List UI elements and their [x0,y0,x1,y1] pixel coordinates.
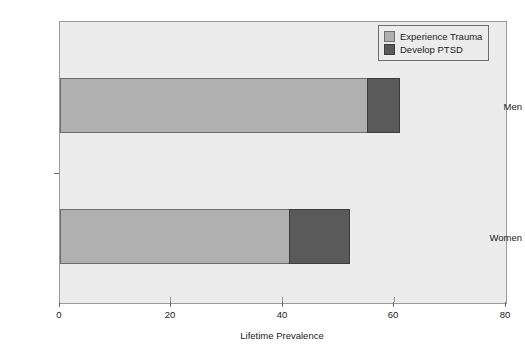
xtick-label-60: 60 [373,309,413,320]
legend-label-develop-ptsd: Develop PTSD [400,44,463,55]
xtick-label-20: 20 [150,309,190,320]
xtick-label-40: 40 [262,309,302,320]
bar-women-segment-ptsd[interactable] [289,209,350,264]
xtick-mark-0 [59,302,60,307]
xtick-label-0: 0 [39,309,79,320]
bar-women-segment-trauma[interactable] [60,209,289,264]
ytick-label-women: Women [470,233,522,243]
xtick-mark-20 [170,302,171,307]
ytick-mark-middle [54,173,59,174]
ytick-label-men: Men [470,102,522,112]
plot-area: Experience Trauma Develop PTSD [59,21,507,304]
xtick-mark-80 [505,302,506,307]
legend-label-experience-trauma: Experience Trauma [400,31,482,42]
legend-item-develop-ptsd[interactable]: Develop PTSD [384,43,482,56]
bar-men[interactable] [60,78,400,133]
legend[interactable]: Experience Trauma Develop PTSD [378,25,489,61]
legend-swatch-trauma-icon [384,31,395,42]
xtick-mark-60 [393,302,394,307]
bar-men-segment-ptsd[interactable] [367,78,400,133]
xtick-inner-60 [394,297,395,302]
x-axis-title: Lifetime Prevalence [59,330,505,341]
legend-swatch-ptsd-icon [384,44,395,55]
xtick-label-80: 80 [485,309,525,320]
xtick-mark-40 [282,302,283,307]
bar-women[interactable] [60,209,350,264]
bar-men-segment-trauma[interactable] [60,78,367,133]
legend-item-experience-trauma[interactable]: Experience Trauma [384,30,482,43]
